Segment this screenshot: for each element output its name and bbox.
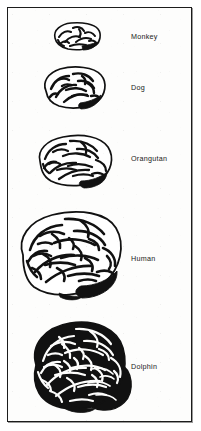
dolphin-brain-icon bbox=[8, 8, 193, 423]
figure-frame: Monkey bbox=[7, 7, 192, 422]
specimen-label-dolphin: Dolphin bbox=[131, 363, 157, 370]
